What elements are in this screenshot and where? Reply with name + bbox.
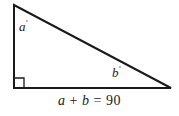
equation-equals-sign: = xyxy=(94,93,102,108)
triangle-outline xyxy=(14,5,171,88)
angle-label-b: b˚ xyxy=(112,66,121,79)
equation-left-term: a xyxy=(58,93,66,108)
equation-right-term: b xyxy=(82,93,90,108)
degree-icon-a: ˚ xyxy=(26,19,29,28)
angle-label-a: a˚ xyxy=(19,20,28,33)
degree-icon-b: ˚ xyxy=(119,65,122,74)
geometry-figure: a˚ b˚ a + b = 90 xyxy=(0,0,179,116)
equation-value: 90 xyxy=(106,93,121,108)
equation-operator: + xyxy=(70,93,78,108)
right-angle-marker-icon xyxy=(14,78,24,88)
equation-caption: a + b = 90 xyxy=(0,93,179,109)
